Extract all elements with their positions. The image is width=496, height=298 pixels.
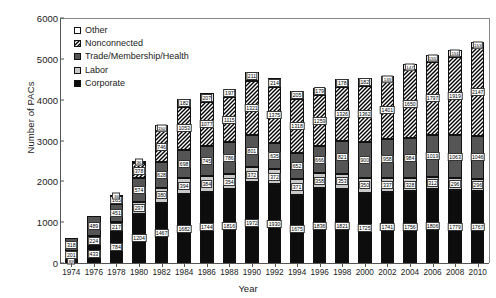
bar-segment-nonconnected[interactable]: 1401	[381, 82, 395, 139]
bar-segment-corporate[interactable]: 1972	[245, 182, 259, 263]
bar-1988[interactable]: 18163547861115197	[223, 89, 237, 263]
bar-segment-corporate[interactable]: 1806	[426, 189, 440, 263]
bar-segment-corporate[interactable]: 1741	[381, 192, 395, 263]
bar-2000[interactable]: 17253509001362182	[358, 78, 372, 263]
bar-segment-labor[interactable]: 394	[177, 178, 191, 194]
bar-segment-other[interactable]: 178	[335, 79, 349, 86]
bar-segment-corporate[interactable]: 1821	[335, 189, 349, 263]
bar-segment-trade-membership-health[interactable]: 821	[335, 141, 349, 175]
bar-segment-corporate[interactable]: 784	[110, 231, 124, 263]
bar-1980[interactable]: 120429757437836	[132, 161, 146, 263]
legend-item-nonconnected[interactable]: Nonconnected	[74, 37, 189, 50]
bar-segment-trade-membership-health[interactable]: 801	[245, 135, 259, 168]
bar-segment-corporate[interactable]: 1204	[132, 214, 146, 263]
bar-segment-labor[interactable]: 217	[110, 222, 124, 231]
bar-segment-corporate[interactable]: 1725	[358, 193, 372, 263]
bar-segment-other[interactable]: 147	[403, 64, 417, 70]
bar-segment-other[interactable]: 214	[268, 78, 282, 87]
bar-segment-corporate[interactable]: 1767	[471, 191, 485, 263]
bar-segment-trade-membership-health[interactable]: 318	[65, 238, 79, 251]
bar-segment-trade-membership-health[interactable]: 1063	[448, 135, 462, 178]
bar-2010[interactable]: 176729610462147153	[471, 42, 485, 263]
bar-segment-trade-membership-health[interactable]: 652	[290, 153, 304, 180]
bar-segment-trade-membership-health[interactable]: 635	[268, 143, 282, 169]
bar-segment-trade-membership-health[interactable]: 1019	[426, 135, 440, 177]
bar-2008[interactable]: 177929610631919151	[448, 50, 462, 263]
legend-item-other[interactable]: Other	[74, 24, 189, 37]
bar-segment-nonconnected[interactable]: 1362	[358, 86, 372, 142]
bar-segment-labor[interactable]: 354	[223, 174, 237, 188]
bar-segment-nonconnected[interactable]: 1321	[245, 81, 259, 135]
bar-segment-trade-membership-health[interactable]: 958	[381, 139, 395, 178]
bar-2004[interactable]: 17563289841650147	[403, 64, 417, 263]
bar-segment-corporate[interactable]: 1816	[223, 189, 237, 263]
bar-segment-corporate[interactable]: 1930	[268, 184, 282, 263]
bar-segment-other[interactable]: 151	[448, 50, 462, 56]
bar-segment-labor[interactable]: 297	[132, 202, 146, 214]
bar-1982[interactable]: 1467380628746150	[155, 125, 169, 263]
bar-segment-corporate[interactable]: 1779	[448, 190, 462, 263]
bar-segment-labor[interactable]: 353	[335, 174, 349, 188]
legend-item-labor[interactable]: Labor	[74, 64, 189, 77]
bar-segment-other[interactable]: 207	[200, 93, 214, 101]
bar-segment-nonconnected[interactable]: 2147	[471, 48, 485, 136]
bar-segment-other[interactable]: 211	[245, 72, 259, 81]
bar-segment-other[interactable]: 205	[290, 91, 304, 99]
bar-1996[interactable]: 18363586661259179	[313, 88, 327, 264]
bar-segment-nonconnected[interactable]: 1077	[200, 102, 214, 146]
bar-segment-trade-membership-health[interactable]: 489	[87, 216, 101, 236]
bar-segment-labor[interactable]: 201	[65, 251, 79, 259]
bar-segment-corporate[interactable]: 1836	[313, 188, 327, 263]
legend-item-corporate[interactable]: Corporate	[74, 77, 189, 90]
bar-segment-trade-membership-health[interactable]: 786	[223, 142, 237, 174]
bar-segment-other[interactable]: 182	[177, 99, 191, 106]
bar-2002[interactable]: 17413379581401133	[381, 76, 395, 263]
bar-segment-labor[interactable]: 358	[313, 173, 327, 188]
bar-segment-corporate[interactable]: 1756	[403, 191, 417, 263]
bar-1984[interactable]: 16823946981053182	[177, 99, 191, 263]
bar-1976[interactable]: 433224489	[87, 216, 101, 263]
bar-segment-trade-membership-health[interactable]: 451	[110, 204, 124, 222]
bar-1986[interactable]: 17443847451077207	[200, 93, 214, 263]
bar-segment-labor[interactable]: 380	[155, 188, 169, 204]
bar-segment-trade-membership-health[interactable]: 745	[200, 146, 214, 176]
bar-segment-nonconnected[interactable]: 1650	[403, 70, 417, 137]
bar-segment-nonconnected[interactable]: 1375	[268, 87, 282, 143]
bar-segment-labor[interactable]: 372	[245, 167, 259, 182]
bar-segment-labor[interactable]: 372	[268, 169, 282, 184]
bar-1990[interactable]: 19723728011321211	[245, 72, 259, 263]
bar-segment-labor[interactable]: 384	[200, 176, 214, 192]
bar-1974[interactable]: 89201318	[65, 238, 79, 263]
bar-segment-labor[interactable]: 350	[358, 178, 372, 192]
legend-item-trade-membership-health[interactable]: Trade/Membership/Health	[74, 50, 189, 63]
bar-segment-other[interactable]: 179	[313, 88, 327, 95]
bar-segment-labor[interactable]: 296	[471, 179, 485, 191]
bar-segment-nonconnected[interactable]: 1318	[290, 99, 304, 153]
bar-segment-nonconnected[interactable]: 1326	[335, 87, 349, 141]
bar-1998[interactable]: 18213538211326178	[335, 79, 349, 263]
bar-segment-other[interactable]: 133	[381, 76, 395, 81]
bar-segment-labor[interactable]: 328	[403, 178, 417, 191]
bar-segment-other[interactable]: 182	[358, 78, 372, 85]
bar-segment-other[interactable]: 155	[426, 55, 440, 61]
bar-segment-labor[interactable]: 371	[290, 179, 304, 194]
bar-segment-nonconnected[interactable]: 1115	[223, 97, 237, 143]
bar-segment-labor[interactable]: 296	[448, 178, 462, 190]
bar-1978[interactable]: 78421745116536	[110, 196, 124, 263]
bar-1994[interactable]: 16753716521318205	[290, 91, 304, 263]
bar-segment-trade-membership-health[interactable]: 574	[132, 178, 146, 201]
bar-segment-labor[interactable]: 224	[87, 236, 101, 245]
bar-segment-labor[interactable]: 312	[426, 177, 440, 190]
bar-segment-corporate[interactable]: 1744	[200, 192, 214, 263]
bar-segment-trade-membership-health[interactable]: 698	[177, 150, 191, 179]
bar-segment-other[interactable]: 153	[471, 42, 485, 48]
bar-segment-nonconnected[interactable]: 746	[155, 131, 169, 161]
bar-segment-other[interactable]: 150	[155, 125, 169, 131]
bar-segment-other[interactable]: 197	[223, 89, 237, 97]
bar-segment-nonconnected[interactable]: 1919	[448, 57, 462, 135]
bar-2006[interactable]: 180631210191797155	[426, 55, 440, 263]
bar-segment-other[interactable]: 36	[110, 195, 124, 197]
bar-segment-trade-membership-health[interactable]: 984	[403, 138, 417, 178]
bar-segment-corporate[interactable]: 433	[87, 245, 101, 263]
bar-segment-corporate[interactable]: 1467	[155, 203, 169, 263]
